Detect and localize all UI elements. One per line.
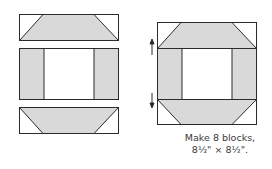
top-strip-piece xyxy=(20,15,119,41)
bottom-strip-piece xyxy=(20,108,119,134)
block-caption: Make 8 blocks, 8½" × 8½". xyxy=(170,132,270,156)
left-exploded-pieces xyxy=(20,15,119,134)
assembled-block xyxy=(158,23,257,125)
caption-line-1: Make 8 blocks, xyxy=(170,132,270,144)
arrow-down-icon xyxy=(150,93,154,108)
arrow-up-icon xyxy=(150,39,154,55)
middle-unit-piece xyxy=(20,49,119,100)
caption-line-2: 8½" × 8½". xyxy=(170,144,270,156)
